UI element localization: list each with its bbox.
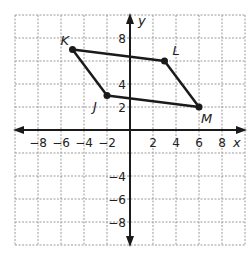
x-tick-label: 8 [218,136,226,150]
y-axis-label: y [137,13,146,28]
x-tick-label: −6 [52,136,70,150]
y-tick-label: −4 [108,170,126,184]
x-tick-label: 6 [195,136,203,150]
x-tick-label: −4 [75,136,93,150]
x-axis-label: x [232,135,241,150]
vertex-point-m [196,104,203,111]
vertex-label-j: J [90,99,97,114]
y-tick-label: 4 [118,78,126,92]
vertex-label-k: K [61,33,71,48]
x-tick-label: −8 [29,136,47,150]
x-tick-label: −2 [98,136,116,150]
quadrilateral [73,50,200,108]
vertex-point-l [161,58,168,65]
vertex-point-j [104,92,111,99]
y-tick-label: 2 [118,101,126,115]
x-tick-label: 4 [172,136,180,150]
y-tick-label: −8 [108,216,126,230]
vertices: KLMJ [61,33,213,127]
vertex-label-l: L [173,43,180,58]
vertex-point-k [69,46,76,53]
y-tick-label: 8 [118,32,126,46]
y-tick-label: −6 [108,193,126,207]
x-tick-label: 2 [149,136,157,150]
coordinate-plane: −8−6−4−22468842−4−6−8xy KLMJ [0,0,247,258]
axes [13,13,247,247]
vertex-label-m: M [201,111,212,126]
quadrilateral-outline [73,50,200,108]
